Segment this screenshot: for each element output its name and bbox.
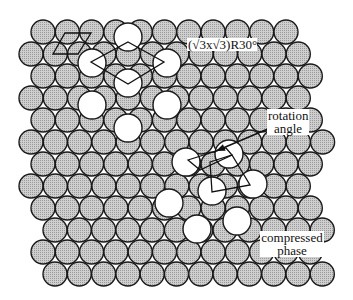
substrate-atom	[140, 218, 164, 242]
substrate-atom	[43, 218, 67, 242]
substrate-atom	[116, 218, 140, 242]
substrate-atom	[286, 262, 310, 286]
substrate-atom	[238, 86, 262, 110]
substrate-atom	[177, 108, 201, 132]
compressed-phase-label: compressed phase	[260, 231, 324, 257]
adsorbate-atom	[114, 69, 142, 97]
substrate-atom	[19, 86, 43, 110]
substrate-atom	[286, 174, 310, 198]
substrate-atom	[274, 64, 298, 88]
adsorbate-atom	[153, 91, 181, 119]
adsorbate-atom	[215, 140, 243, 168]
substrate-atom	[19, 130, 43, 154]
substrate-atom	[80, 196, 104, 220]
superstructure-label-text: (√3x√3)R30°	[188, 37, 257, 52]
substrate-atom	[31, 196, 55, 220]
rotation-angle-label: rotation angle	[267, 109, 309, 135]
substrate-atom	[92, 130, 116, 154]
substrate-atom	[225, 64, 249, 88]
adsorbate-atom	[172, 148, 200, 176]
substrate-atom	[298, 196, 322, 220]
substrate-atom	[104, 196, 128, 220]
substrate-atom	[128, 152, 152, 176]
substrate-atom	[310, 262, 334, 286]
substrate-atom	[68, 130, 92, 154]
substrate-atom	[80, 152, 104, 176]
substrate-atom	[67, 218, 91, 242]
substrate-atom	[104, 240, 128, 264]
substrate-atom	[201, 64, 225, 88]
substrate-atom	[19, 174, 43, 198]
substrate-atom	[311, 130, 335, 154]
substrate-atom	[43, 86, 67, 110]
substrate-atom	[250, 64, 274, 88]
substrate-atom	[31, 20, 55, 44]
adsorbate-atom	[223, 207, 251, 235]
substrate-atom	[201, 108, 225, 132]
substrate-atom	[286, 86, 310, 110]
substrate-atom	[92, 218, 116, 242]
adsorbate-atom	[183, 215, 211, 243]
substrate-atom	[68, 174, 92, 198]
substrate-atom	[116, 262, 140, 286]
adsorbate-atom	[114, 114, 142, 142]
substrate-atom	[19, 42, 43, 66]
substrate-atom	[189, 262, 213, 286]
substrate-atom	[298, 152, 322, 176]
substrate-atom	[250, 196, 274, 220]
substrate-atom	[286, 42, 310, 66]
substrate-atom	[225, 240, 249, 264]
substrate-atom	[80, 20, 104, 44]
substrate-atom	[274, 20, 298, 44]
substrate-atom	[141, 130, 165, 154]
substrate-atom	[274, 152, 298, 176]
substrate-atom	[237, 262, 261, 286]
substrate-atom	[43, 262, 67, 286]
substrate-atom	[55, 20, 79, 44]
substrate-atom	[67, 262, 91, 286]
substrate-atom	[31, 152, 55, 176]
compressed-label-line2: phase	[261, 244, 323, 257]
substrate-atom	[213, 86, 237, 110]
substrate-atom	[165, 262, 189, 286]
substrate-atom	[43, 130, 67, 154]
adsorbate-atom	[78, 91, 106, 119]
substrate-atom	[55, 152, 79, 176]
substrate-atom	[116, 174, 140, 198]
substrate-atom	[153, 240, 177, 264]
substrate-atom	[225, 108, 249, 132]
adsorbate-atom	[155, 189, 183, 217]
substrate-atom	[262, 86, 286, 110]
substrate-atom	[55, 108, 79, 132]
substrate-atom	[213, 262, 237, 286]
substrate-atom	[140, 262, 164, 286]
adsorbate-atom	[153, 49, 181, 77]
substrate-atom	[201, 240, 225, 264]
substrate-atom	[128, 196, 152, 220]
substrate-atom	[298, 64, 322, 88]
substrate-atom	[92, 174, 116, 198]
substrate-atom	[80, 240, 104, 264]
substrate-atom	[55, 240, 79, 264]
substrate-atom	[153, 20, 177, 44]
substrate-atom	[43, 174, 67, 198]
substrate-atom	[262, 42, 286, 66]
substrate-atom	[55, 64, 79, 88]
substrate-atom	[31, 240, 55, 264]
substrate-atom	[274, 196, 298, 220]
substrate-atom	[104, 152, 128, 176]
substrate-atom	[189, 86, 213, 110]
rotation-label-line2: angle	[268, 122, 308, 135]
substrate-atom	[31, 108, 55, 132]
substrate-atom	[262, 262, 286, 286]
substrate-atom	[55, 196, 79, 220]
superstructure-label: (√3x√3)R30°	[187, 38, 257, 51]
substrate-atom	[128, 240, 152, 264]
substrate-atom	[31, 64, 55, 88]
substrate-atom	[92, 262, 116, 286]
